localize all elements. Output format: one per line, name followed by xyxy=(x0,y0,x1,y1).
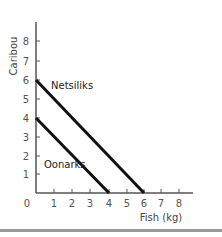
y-tick-label: 8 xyxy=(23,36,29,47)
x-tick-label: 4 xyxy=(106,198,112,209)
oonarks-line xyxy=(36,118,109,193)
x-tick-label: 6 xyxy=(141,198,147,209)
x-tick-label: 5 xyxy=(124,198,130,209)
x-tick-label: 2 xyxy=(69,198,75,209)
oonarks-label: Oonarks xyxy=(44,159,86,170)
y-tick-label: 7 xyxy=(23,56,29,67)
y-tick-label: 4 xyxy=(23,113,29,124)
netsiliks-label: Netsiliks xyxy=(51,80,93,91)
y-tick-label: 6 xyxy=(23,75,29,86)
y-ticks: 8 7 6 5 4 3 2 1 xyxy=(23,36,40,180)
x-tick-label: 8 xyxy=(176,198,182,209)
y-tick-label: 1 xyxy=(23,169,29,180)
origin-label: 0 xyxy=(24,198,30,209)
ppf-chart: Caribou 8 7 6 5 4 3 2 1 0 1 2 3 4 5 6 7 xyxy=(0,0,222,237)
x-tick-label: 1 xyxy=(51,198,57,209)
x-axis-title: Fish (kg) xyxy=(140,212,183,223)
x-ticks: 0 1 2 3 4 5 6 7 8 xyxy=(24,189,182,209)
y-tick-label: 5 xyxy=(23,94,29,105)
y-tick-label: 3 xyxy=(23,132,29,143)
y-tick-label: 2 xyxy=(23,151,29,162)
x-tick-label: 7 xyxy=(158,198,164,209)
bottom-divider xyxy=(0,229,222,232)
y-axis-title: Caribou xyxy=(8,37,19,76)
x-tick-label: 3 xyxy=(87,198,93,209)
